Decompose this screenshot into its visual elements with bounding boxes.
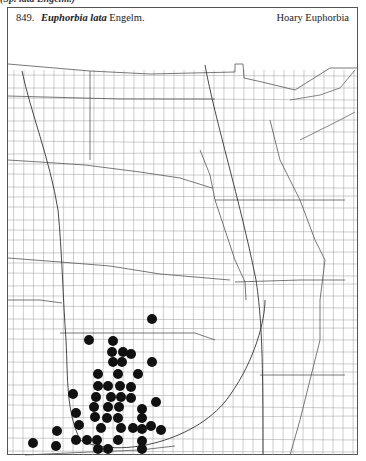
occurrence-dot	[128, 423, 138, 433]
county-grid	[8, 70, 357, 455]
occurrence-dot	[51, 441, 61, 451]
occurrence-dot	[28, 438, 38, 448]
occurrence-dots	[28, 314, 166, 454]
occurrence-dot	[96, 423, 106, 433]
occurrence-dot	[107, 347, 117, 357]
occurrence-dot	[68, 389, 78, 399]
occurrence-dot	[93, 381, 103, 391]
occurrence-dot	[93, 369, 103, 379]
occurrence-dot	[147, 357, 157, 367]
occurrence-dot	[89, 402, 99, 412]
occurrence-dot	[103, 444, 113, 454]
occurrence-dot	[126, 382, 136, 392]
occurrence-dot	[114, 402, 124, 412]
occurrence-dot	[91, 392, 101, 402]
occurrence-dot	[116, 392, 126, 402]
occurrence-dot	[113, 369, 123, 379]
occurrence-dot	[113, 413, 123, 423]
occurrence-dot	[126, 393, 136, 403]
occurrence-dot	[71, 435, 81, 445]
occurrence-dot	[103, 381, 113, 391]
occurrence-dot	[74, 420, 84, 430]
occurrence-dot	[82, 435, 92, 445]
occurrence-dot	[151, 397, 161, 407]
state-boundaries	[8, 64, 357, 455]
occurrence-dot	[92, 435, 102, 445]
occurrence-dot	[103, 402, 113, 412]
occurrence-dot	[90, 412, 100, 422]
occurrence-dot	[115, 381, 125, 391]
occurrence-dot	[106, 392, 116, 402]
occurrence-dot	[146, 421, 156, 431]
occurrence-dot	[93, 444, 103, 454]
occurrence-dot	[116, 423, 126, 433]
occurrence-dot	[137, 413, 147, 423]
occurrence-dot	[137, 424, 147, 434]
occurrence-dot	[71, 408, 81, 418]
occurrence-dot	[84, 335, 94, 345]
distribution-map	[0, 0, 366, 461]
occurrence-dot	[126, 349, 136, 359]
occurrence-dot	[113, 435, 123, 445]
occurrence-dot	[137, 444, 147, 454]
occurrence-dot	[156, 425, 166, 435]
occurrence-dot	[52, 426, 62, 436]
occurrence-dot	[108, 357, 118, 367]
occurrence-dot	[117, 357, 127, 367]
occurrence-dot	[147, 314, 157, 324]
occurrence-dot	[137, 404, 147, 414]
occurrence-dot	[102, 413, 112, 423]
occurrence-dot	[108, 336, 118, 346]
occurrence-dot	[133, 369, 143, 379]
